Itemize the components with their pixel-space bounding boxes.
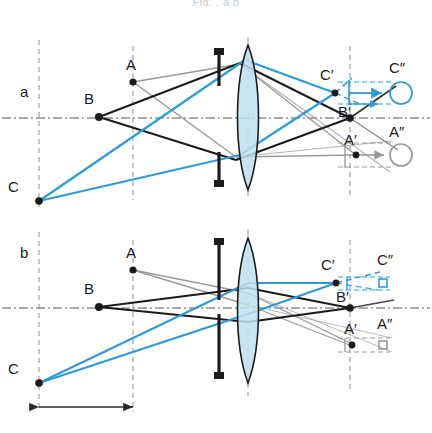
panel-a: a A B C C′ B′ A′ C″ A″ xyxy=(2,38,430,210)
label-object-c-b: C xyxy=(8,360,19,377)
optics-figure: Fig. , a b xyxy=(0,0,432,433)
label-blur-c-double-prime-b: C″ xyxy=(377,251,394,268)
label-image-b-prime: B′ xyxy=(338,103,351,120)
label-image-a-prime: A′ xyxy=(344,131,357,148)
label-object-a-b: A xyxy=(126,244,136,261)
object-point-c-dot-b xyxy=(35,379,43,387)
label-blur-c-double-prime: C″ xyxy=(389,59,406,76)
c-double-prime-square-b xyxy=(379,279,387,287)
label-image-b-prime-b: B′ xyxy=(336,288,349,305)
biconvex-lens-b xyxy=(238,238,259,383)
diagram-canvas: a A B C C′ B′ A′ C″ A″ xyxy=(0,0,432,433)
panel-label-b: b xyxy=(20,244,28,261)
label-blur-a-double-prime: A″ xyxy=(389,123,405,140)
object-point-a-dot xyxy=(129,78,136,85)
a-double-prime-circle-a xyxy=(390,144,412,166)
label-object-a: A xyxy=(126,56,136,73)
panel-b: b A B C C′ B′ A′ C″ A″ xyxy=(2,230,430,412)
label-image-c-prime: C′ xyxy=(320,66,334,83)
label-image-a-prime-b: A′ xyxy=(344,320,357,337)
biconvex-lens-a xyxy=(238,45,259,190)
panel-label-a: a xyxy=(20,83,29,100)
object-point-a-dot-b xyxy=(129,266,136,273)
label-blur-a-double-prime-b: A″ xyxy=(377,315,393,332)
object-point-b-dot xyxy=(95,113,103,121)
label-image-c-prime-b: C′ xyxy=(321,256,335,273)
label-object-c: C xyxy=(8,178,19,195)
b-prime-point-b xyxy=(346,304,354,312)
label-object-b: B xyxy=(84,90,94,107)
object-point-b-dot-b xyxy=(95,303,103,311)
c-prime-construction-a xyxy=(332,80,392,105)
object-point-c-dot xyxy=(35,197,43,205)
c-double-prime-circle-a xyxy=(390,82,412,104)
label-object-b-b: B xyxy=(84,280,94,297)
